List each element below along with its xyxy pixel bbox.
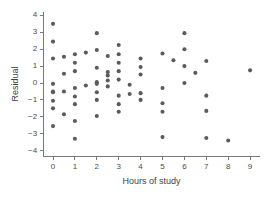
data-point xyxy=(117,102,121,106)
data-point xyxy=(182,31,186,35)
data-point xyxy=(117,52,121,56)
data-point xyxy=(51,56,55,60)
data-point xyxy=(95,114,99,118)
data-point xyxy=(51,90,55,94)
data-point xyxy=(95,31,99,35)
data-point xyxy=(106,84,110,88)
data-point xyxy=(95,48,99,52)
data-point xyxy=(73,61,77,65)
data-point xyxy=(51,99,55,103)
data-point xyxy=(139,65,143,69)
data-point xyxy=(62,112,66,116)
x-tick-label: 9 xyxy=(248,163,252,171)
data-point xyxy=(51,124,55,128)
x-tick-label: 2 xyxy=(95,163,99,171)
x-tick-label: 4 xyxy=(138,163,142,171)
data-point xyxy=(128,83,132,87)
data-point xyxy=(117,110,121,114)
data-point xyxy=(139,56,143,60)
data-point xyxy=(204,59,208,63)
scatter-plot-figure: 43210−1−2−3−40123456789 Hours of study R… xyxy=(0,0,265,200)
data-point xyxy=(139,91,143,95)
data-point xyxy=(106,54,110,58)
data-point xyxy=(62,72,66,76)
data-point xyxy=(117,94,121,98)
x-tick-label: 3 xyxy=(116,163,120,171)
data-point xyxy=(51,22,55,26)
data-point xyxy=(95,66,99,70)
data-point xyxy=(139,98,143,102)
data-point xyxy=(62,55,66,59)
x-tick-label: 1 xyxy=(73,163,77,171)
data-point xyxy=(95,98,99,102)
y-tick-label: 2 xyxy=(0,45,37,53)
x-tick-label: 5 xyxy=(160,163,164,171)
y-tick-label: 4 xyxy=(0,11,37,19)
x-tick-label: 6 xyxy=(182,163,186,171)
data-point xyxy=(171,58,175,62)
data-point xyxy=(51,82,55,86)
data-point xyxy=(106,78,110,82)
data-point xyxy=(248,68,252,72)
data-point xyxy=(117,61,121,65)
data-point xyxy=(182,47,186,51)
data-point xyxy=(84,51,88,55)
data-point xyxy=(51,40,55,44)
data-point xyxy=(95,90,99,94)
data-point xyxy=(106,73,110,77)
data-point xyxy=(128,92,132,96)
x-tick-label: 7 xyxy=(204,163,208,171)
data-point xyxy=(73,86,77,90)
data-point xyxy=(160,101,164,105)
data-point xyxy=(51,106,55,110)
data-point xyxy=(193,71,197,75)
y-tick-label: −4 xyxy=(0,147,37,155)
data-point xyxy=(73,94,77,98)
data-points xyxy=(51,22,252,143)
data-point xyxy=(182,81,186,85)
x-tick-label: 8 xyxy=(226,163,230,171)
y-tick-label: −3 xyxy=(0,130,37,138)
data-point xyxy=(62,89,66,93)
data-point xyxy=(139,73,143,77)
data-point xyxy=(204,136,208,140)
data-point xyxy=(95,82,99,86)
data-point xyxy=(73,52,77,56)
data-point xyxy=(73,119,77,123)
data-point xyxy=(73,102,77,106)
data-point xyxy=(117,43,121,47)
y-tick-label: −2 xyxy=(0,113,37,121)
data-point xyxy=(160,51,164,55)
plot-area: 43210−1−2−3−40123456789 Hours of study R… xyxy=(0,0,265,200)
data-point xyxy=(73,137,77,141)
x-axis-title: Hours of study xyxy=(123,176,181,186)
data-point xyxy=(204,94,208,98)
data-point xyxy=(226,138,230,142)
x-tick-label: 0 xyxy=(51,163,55,171)
data-point xyxy=(182,64,186,68)
data-point xyxy=(84,83,88,87)
y-tick-label: 3 xyxy=(0,28,37,36)
data-point xyxy=(117,69,121,73)
data-point xyxy=(160,110,164,114)
data-point xyxy=(73,69,77,73)
data-point xyxy=(160,86,164,90)
y-axis-title: Residual xyxy=(10,67,20,102)
data-point xyxy=(204,109,208,113)
data-point xyxy=(160,135,164,139)
axes xyxy=(40,12,260,159)
data-point xyxy=(117,78,121,82)
